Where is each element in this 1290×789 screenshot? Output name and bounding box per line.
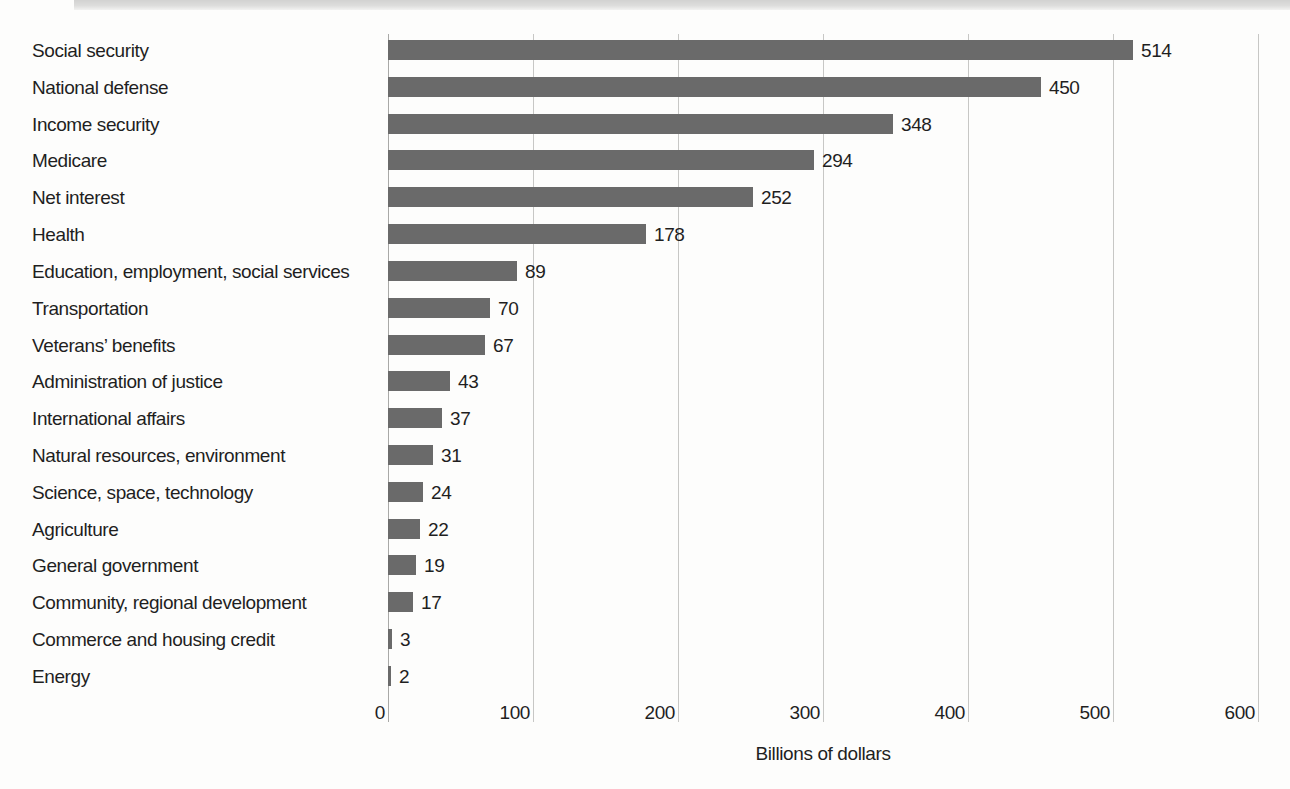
value-label: 89 (525, 261, 545, 281)
bar (388, 298, 490, 318)
category-label: Medicare (32, 150, 107, 170)
bar (388, 224, 646, 244)
category-label: Science, space, technology (32, 482, 253, 502)
category-label: Social security (32, 40, 149, 60)
gridline-x-300 (823, 34, 824, 722)
x-axis-tick-label: 0 (285, 702, 385, 722)
bar (388, 187, 753, 207)
value-label: 252 (761, 187, 792, 207)
category-label: National defense (32, 77, 168, 97)
category-label: Commerce and housing credit (32, 629, 275, 649)
federal-outlays-bar-chart: Social security514National defense450Inc… (0, 0, 1290, 789)
value-label: 450 (1049, 77, 1080, 97)
value-label: 37 (450, 408, 470, 428)
value-label: 70 (498, 298, 518, 318)
value-label: 17 (421, 592, 441, 612)
value-label: 348 (901, 114, 932, 134)
category-label: General government (32, 555, 198, 575)
category-label: Agriculture (32, 519, 118, 539)
category-label: Net interest (32, 187, 124, 207)
bar (388, 555, 416, 575)
bar (388, 335, 485, 355)
value-label: 178 (654, 224, 685, 244)
category-label: Health (32, 224, 85, 244)
x-axis-tick-label: 600 (1155, 702, 1255, 722)
gridline-x-400 (968, 34, 969, 722)
category-label: Community, regional development (32, 592, 307, 612)
category-label: International affairs (32, 408, 185, 428)
value-label: 31 (441, 445, 461, 465)
category-label: Income security (32, 114, 159, 134)
bar (388, 114, 893, 134)
value-label: 67 (493, 335, 513, 355)
x-axis-title: Billions of dollars (388, 743, 1258, 765)
bar (388, 445, 433, 465)
value-label: 43 (458, 371, 478, 391)
bar (388, 666, 391, 686)
value-label: 19 (424, 555, 444, 575)
x-axis-tick-label: 500 (1010, 702, 1110, 722)
gridline-x-600 (1258, 34, 1259, 722)
bar (388, 371, 450, 391)
bar (388, 519, 420, 539)
category-label: Transportation (32, 298, 148, 318)
value-label: 24 (431, 482, 451, 502)
x-axis-tick-label: 100 (430, 702, 530, 722)
scanned-book-page: Social security514National defense450Inc… (0, 0, 1290, 789)
value-label: 2 (399, 666, 409, 686)
bar (388, 592, 413, 612)
category-label: Energy (32, 666, 90, 686)
category-label: Veterans’ benefits (32, 335, 175, 355)
value-label: 294 (822, 150, 853, 170)
bar (388, 629, 392, 649)
category-label: Natural resources, environment (32, 445, 285, 465)
bar (388, 482, 423, 502)
x-axis-tick-label: 200 (575, 702, 675, 722)
category-label: Education, employment, social services (32, 261, 349, 281)
bar (388, 77, 1041, 97)
value-label: 514 (1141, 40, 1172, 60)
value-label: 22 (428, 519, 448, 539)
gridline-x-200 (678, 34, 679, 722)
x-axis-tick-label: 300 (720, 702, 820, 722)
bar (388, 408, 442, 428)
x-axis-tick-label: 400 (865, 702, 965, 722)
value-label: 3 (400, 629, 410, 649)
bar (388, 40, 1133, 60)
gridline-x-100 (533, 34, 534, 722)
bar (388, 261, 517, 281)
category-label: Administration of justice (32, 371, 223, 391)
bar (388, 150, 814, 170)
gridline-x-500 (1113, 34, 1114, 722)
